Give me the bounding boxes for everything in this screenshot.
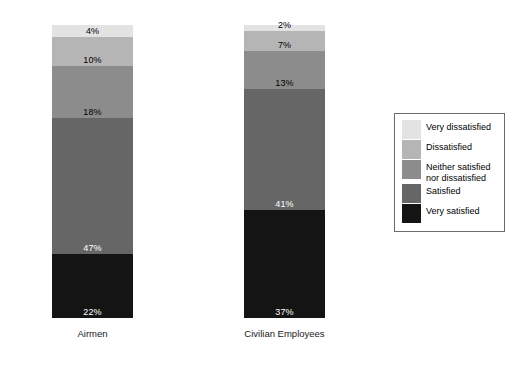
legend-item[interactable]: Satisfied — [402, 184, 499, 203]
legend-swatch-icon — [402, 120, 421, 139]
bar-segment-dissatisfied[interactable]: 10% — [52, 37, 133, 66]
segment-value-label: 7% — [244, 40, 325, 50]
legend-item-label: Very satisfied — [426, 204, 480, 217]
legend-item[interactable]: Dissatisfied — [402, 140, 499, 159]
legend-item-label: Neither satisfied nor dissatisfied — [426, 160, 491, 183]
legend-item[interactable]: Very satisfied — [402, 204, 499, 223]
bar-group-civilian-employees: 2%7%13%41%37% Civilian Employees — [244, 25, 325, 318]
chart-page: 4%10%18%47%22% Airmen 2%7%13%41%37% Civi… — [0, 0, 532, 368]
bar-segment-very-satisfied[interactable]: 22% — [52, 254, 133, 318]
legend-item[interactable]: Neither satisfied nor dissatisfied — [402, 160, 499, 183]
segment-value-label: 47% — [52, 243, 133, 253]
bar-segment-very-dissatisfied[interactable]: 4% — [52, 25, 133, 37]
segment-value-label: 2% — [244, 20, 325, 30]
bar-segment-satisfied[interactable]: 47% — [52, 118, 133, 254]
segment-value-label: 4% — [52, 26, 133, 36]
plot-area: 4%10%18%47%22% Airmen 2%7%13%41%37% Civi… — [0, 0, 532, 368]
legend-item-label: Very dissatisfied — [426, 120, 491, 133]
segment-value-label: 41% — [244, 199, 325, 209]
category-label-civilian-employees: Civilian Employees — [214, 328, 355, 340]
bar-group-airmen: 4%10%18%47%22% Airmen — [52, 25, 133, 318]
stacked-bar-airmen[interactable]: 4%10%18%47%22% — [52, 25, 133, 318]
bar-segment-neither[interactable]: 13% — [244, 51, 325, 89]
legend-item[interactable]: Very dissatisfied — [402, 120, 499, 139]
bar-segment-neither[interactable]: 18% — [52, 66, 133, 118]
legend-swatch-icon — [402, 160, 421, 179]
legend-swatch-icon — [402, 140, 421, 159]
stacked-bar-civilian-employees[interactable]: 2%7%13%41%37% — [244, 25, 325, 318]
segment-value-label: 10% — [52, 55, 133, 65]
segment-value-label: 37% — [244, 307, 325, 317]
bar-segment-satisfied[interactable]: 41% — [244, 89, 325, 209]
legend-item-label: Satisfied — [426, 184, 461, 197]
segment-value-label: 18% — [52, 107, 133, 117]
bar-segment-dissatisfied[interactable]: 7% — [244, 31, 325, 52]
legend-swatch-icon — [402, 204, 421, 223]
segment-value-label: 13% — [244, 78, 325, 88]
legend: Very dissatisfiedDissatisfiedNeither sat… — [394, 113, 505, 232]
category-label-airmen: Airmen — [22, 328, 163, 340]
legend-swatch-icon — [402, 184, 421, 203]
legend-item-label: Dissatisfied — [426, 140, 472, 153]
bar-segment-very-satisfied[interactable]: 37% — [244, 210, 325, 318]
segment-value-label: 22% — [52, 307, 133, 317]
